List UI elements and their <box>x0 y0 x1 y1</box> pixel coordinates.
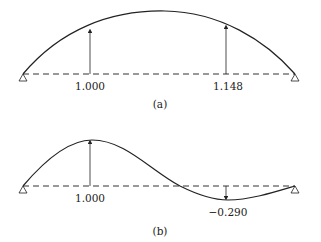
support-icon <box>19 74 27 81</box>
mode-shape-diagram <box>0 0 321 242</box>
value-label-a1: 1.000 <box>75 80 105 92</box>
panel-b <box>19 140 299 200</box>
value-label-a2: 1.148 <box>213 80 243 92</box>
support-icon <box>291 74 299 81</box>
panel-a <box>19 11 299 81</box>
support-icon <box>19 186 27 193</box>
deflected-curve-b <box>23 140 295 200</box>
value-label-b1: 1.000 <box>75 192 105 204</box>
value-label-b2: −0.290 <box>209 206 248 218</box>
caption-a: (a) <box>153 98 167 110</box>
deflected-curve-a <box>23 11 295 74</box>
caption-b: (b) <box>153 225 168 237</box>
